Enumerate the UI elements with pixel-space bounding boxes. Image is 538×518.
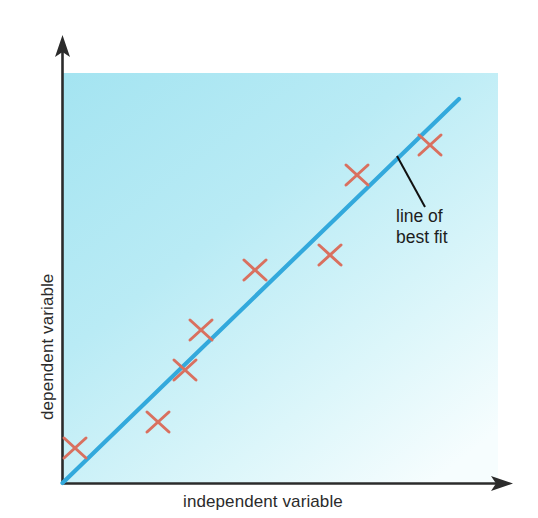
annotation-line-of-best-fit: line of best fit [396,206,448,248]
chart-figure: dependent variable independent variable … [0,0,538,518]
annotation-line-2: best fit [396,227,448,248]
chart-canvas [0,0,538,518]
x-axis-label: independent variable [183,492,343,512]
annotation-line-1: line of [396,206,448,227]
y-axis-label: dependent variable [38,120,58,420]
